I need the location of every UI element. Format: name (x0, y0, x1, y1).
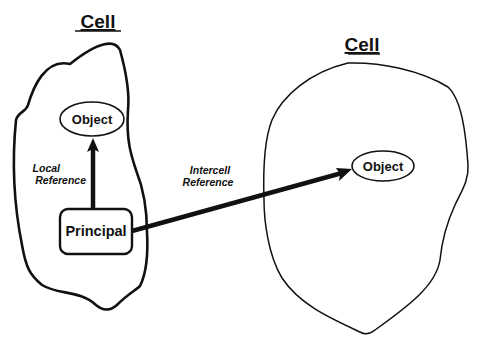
principal-label: Principal (65, 223, 126, 239)
left-object-node: Object (60, 102, 124, 136)
left-cell: Cell Object Principal (14, 11, 147, 309)
local-reference-edge: Local Reference (33, 138, 99, 209)
right-object-node: Object (352, 151, 414, 181)
principal-node: Principal (60, 209, 132, 254)
left-cell-title: Cell (81, 11, 116, 32)
diagram-canvas: Cell Object Principal Local Reference Ce… (0, 0, 482, 349)
right-cell-title: Cell (345, 34, 380, 55)
intercell-reference-edge: Intercell Reference (132, 164, 352, 231)
left-object-label: Object (72, 112, 113, 127)
right-object-label: Object (363, 159, 404, 174)
intercell-reference-label-line1: Intercell (190, 164, 231, 176)
intercell-reference-label-line2: Reference (183, 176, 234, 188)
local-reference-label-line2: Reference (35, 174, 86, 186)
local-reference-label-line1: Local (33, 162, 62, 174)
right-cell-boundary (264, 63, 468, 334)
